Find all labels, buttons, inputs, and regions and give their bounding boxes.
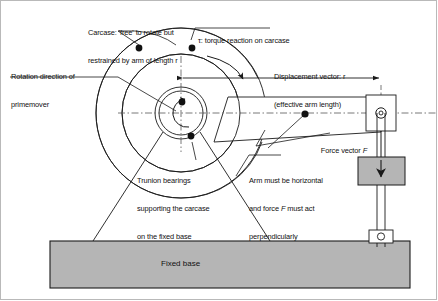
- leader-dot-hub: [179, 99, 186, 106]
- base-anchor-joint: [369, 230, 393, 243]
- label-carcase: Carcase: 'free' to rotate but restrained…: [88, 10, 178, 84]
- label-arm-note-line2: and force F must act: [249, 204, 323, 213]
- leader-dot-trunnion: [188, 133, 195, 140]
- label-displacement-vector: Displacement vector: r (effective arm le…: [274, 54, 345, 128]
- label-force-vector: Force vector F: [313, 137, 367, 165]
- label-arm-note: Arm must be horizontal and force F must …: [249, 158, 323, 259]
- label-rotation-direction: Rotation direction of primemover: [11, 54, 75, 128]
- label-fixed-base: Fixed base: [161, 259, 200, 268]
- label-trunnion-bearings: Trunion bearings supporting the carcase …: [137, 158, 210, 259]
- arm-pivot-joint: [366, 95, 396, 131]
- diagram-canvas: Carcase: 'free' to rotate but restrained…: [0, 0, 438, 301]
- leader-dot-torque: [189, 45, 196, 52]
- fixed-base-block: [50, 241, 410, 288]
